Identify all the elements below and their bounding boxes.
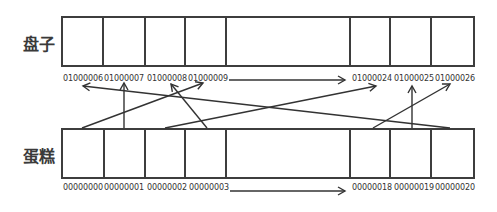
mapping-arrows [0,0,497,212]
mapping-arrow [171,84,207,128]
mapping-arrow [82,83,203,128]
